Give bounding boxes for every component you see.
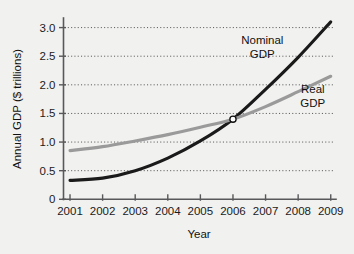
y-tick-label-0: 0: [49, 193, 55, 205]
x-tick-label-2003: 2003: [122, 205, 148, 217]
y-axis-title: Annual GDP ($ trillions): [11, 49, 23, 169]
annotation-real-line2: GDP: [300, 97, 325, 109]
chart-canvas: 00.51.01.52.02.53.0 20012002200320042005…: [0, 0, 354, 254]
x-tick-labels-group: 200120022003200420052006200720082009: [57, 205, 343, 217]
intersection-point: [230, 116, 236, 122]
x-axis-title: Year: [187, 228, 210, 240]
markers-group: [230, 116, 236, 122]
y-tick-label-2.0: 2.0: [40, 79, 56, 91]
x-tick-label-2007: 2007: [253, 205, 279, 217]
x-tick-label-2008: 2008: [285, 205, 311, 217]
gdp-line-chart: 00.51.01.52.02.53.0 20012002200320042005…: [0, 0, 354, 254]
annotation-real-line1: Real: [301, 83, 325, 95]
x-tick-label-2005: 2005: [188, 205, 214, 217]
y-tick-label-1.5: 1.5: [40, 107, 56, 119]
x-tick-label-2004: 2004: [155, 205, 181, 217]
y-tick-label-1.0: 1.0: [40, 136, 56, 148]
x-tick-label-2009: 2009: [318, 205, 344, 217]
y-tick-label-2.5: 2.5: [40, 50, 56, 62]
x-tick-label-2006: 2006: [220, 205, 246, 217]
y-tick-label-3.0: 3.0: [40, 22, 56, 34]
x-tick-label-2001: 2001: [57, 205, 83, 217]
annotation-nominal-line1: Nominal: [241, 34, 283, 46]
x-tick-label-2002: 2002: [90, 205, 116, 217]
y-tick-label-0.5: 0.5: [40, 165, 56, 177]
annotation-nominal-line2: GDP: [250, 48, 275, 60]
